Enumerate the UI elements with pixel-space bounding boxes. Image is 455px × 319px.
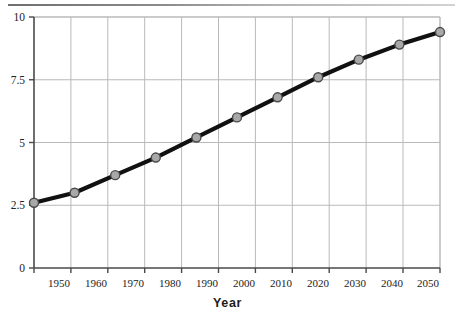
y-tick-label-7-5: 7.5 bbox=[0, 74, 25, 86]
chart-plot-svg bbox=[0, 0, 455, 319]
data-point-2010 bbox=[273, 93, 282, 102]
data-point-2000 bbox=[233, 113, 242, 122]
x-axis-title: Year bbox=[0, 296, 455, 310]
line-chart: 10 7.5 5 2.5 0 1950 1960 1970 1980 1990 … bbox=[0, 0, 455, 319]
y-tick-label-5: 5 bbox=[0, 137, 25, 149]
data-point-1980 bbox=[151, 153, 160, 162]
data-point-2050 bbox=[436, 28, 445, 37]
data-point-2030 bbox=[354, 55, 363, 64]
chart-screenshot: 10 7.5 5 2.5 0 1950 1960 1970 1980 1990 … bbox=[0, 0, 455, 319]
y-tick-label-2-5: 2.5 bbox=[0, 199, 25, 211]
data-point-1960 bbox=[70, 188, 79, 197]
y-tick-label-10: 10 bbox=[0, 11, 25, 23]
data-point-2040 bbox=[395, 40, 404, 49]
data-point-1990 bbox=[192, 133, 201, 142]
data-point-1950 bbox=[30, 198, 39, 207]
data-point-2020 bbox=[314, 73, 323, 82]
y-tick-label-0: 0 bbox=[0, 262, 25, 274]
data-point-1970 bbox=[111, 171, 120, 180]
x-tick-label-2050: 2050 bbox=[406, 277, 450, 289]
